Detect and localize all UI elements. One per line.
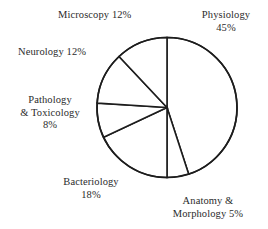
slice-label-physiology-line2: 45% [192, 22, 260, 35]
pie-chart-figure: Microscopy 12% Physiology 45% Neurology … [0, 0, 268, 229]
slice-label-pathology-toxicology: Pathology & Toxicology 8% [8, 94, 92, 132]
slice-label-physiology-line1: Physiology [192, 9, 260, 22]
slice-label-anatomy-line2: Morphology 5% [152, 208, 264, 221]
slice-label-anatomy-line1: Anatomy & [152, 195, 264, 208]
slice-label-neurology-line1: Neurology 12% [18, 46, 86, 59]
slice-label-pathology-line1: Pathology [8, 94, 92, 107]
slice-label-pathology-line3: 8% [8, 119, 92, 132]
slice-label-neurology: Neurology 12% [18, 46, 86, 59]
slice-label-physiology: Physiology 45% [192, 9, 260, 34]
slice-label-bacteriology-line1: Bacteriology [52, 176, 130, 189]
slice-label-microscopy: Microscopy 12% [58, 9, 131, 22]
slice-label-bacteriology: Bacteriology 18% [52, 176, 130, 201]
slice-label-bacteriology-line2: 18% [52, 189, 130, 202]
slice-label-anatomy-morphology: Anatomy & Morphology 5% [152, 195, 264, 220]
slice-label-microscopy-line1: Microscopy 12% [58, 9, 131, 22]
slice-label-pathology-line2: & Toxicology [8, 107, 92, 120]
